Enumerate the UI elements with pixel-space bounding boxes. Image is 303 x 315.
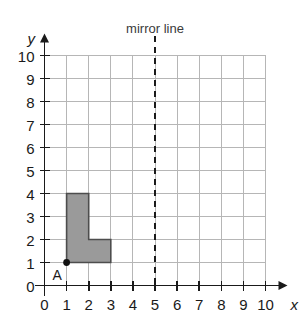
x-tick-label-1: 1 xyxy=(55,297,79,312)
x-tick-label-4: 4 xyxy=(121,297,145,312)
y-axis xyxy=(40,34,50,296)
x-tick-label-9: 9 xyxy=(231,297,255,312)
y-tick-label-6: 6 xyxy=(11,141,35,156)
y-tick-label-1: 1 xyxy=(11,256,35,271)
x-axis-arrow-icon xyxy=(279,281,288,290)
y-axis-arrow-icon xyxy=(40,34,49,43)
point-a-label: A xyxy=(53,268,62,282)
x-tick-label-7: 7 xyxy=(187,297,211,312)
y-tick-label-3: 3 xyxy=(11,210,35,225)
x-axis-label: x xyxy=(291,297,299,312)
x-tick-label-10: 10 xyxy=(254,297,278,312)
coordinate-grid-figure: mirror line A x y 012345678910 012345678… xyxy=(0,0,303,315)
shaded-l-shape xyxy=(67,194,111,263)
mirror-line-label: mirror line xyxy=(95,22,215,35)
x-tick-label-0: 0 xyxy=(33,297,57,312)
y-tick-label-10: 10 xyxy=(11,49,35,64)
x-axis xyxy=(35,281,288,291)
y-tick-label-7: 7 xyxy=(11,118,35,133)
x-tick-label-3: 3 xyxy=(99,297,123,312)
x-tick-label-5: 5 xyxy=(143,297,167,312)
x-tick-label-6: 6 xyxy=(165,297,189,312)
y-tick-label-2: 2 xyxy=(11,233,35,248)
y-tick-label-9: 9 xyxy=(11,72,35,87)
y-tick-label-0: 0 xyxy=(11,279,35,294)
point-a-marker xyxy=(63,259,70,266)
x-tick-label-2: 2 xyxy=(77,297,101,312)
x-tick-label-8: 8 xyxy=(209,297,233,312)
y-tick-label-8: 8 xyxy=(11,95,35,110)
y-tick-label-4: 4 xyxy=(11,187,35,202)
y-tick-label-5: 5 xyxy=(11,164,35,179)
y-axis-label: y xyxy=(28,31,36,46)
plot-canvas xyxy=(0,0,303,315)
